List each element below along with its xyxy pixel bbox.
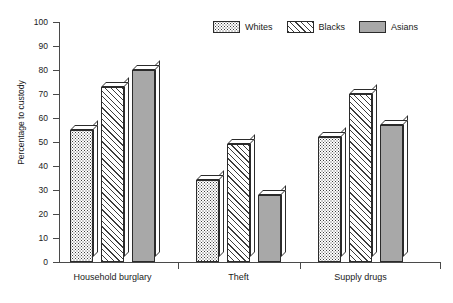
bar-front-face bbox=[380, 125, 403, 262]
bar-side-face bbox=[250, 134, 255, 257]
x-axis-separator-2 bbox=[300, 263, 301, 269]
y-tick-label-90: 90 bbox=[14, 42, 48, 51]
y-tick-20 bbox=[53, 214, 59, 215]
legend-item-whites[interactable]: Whites bbox=[213, 21, 273, 33]
x-axis-separator-1 bbox=[178, 263, 179, 269]
x-axis-line bbox=[59, 262, 441, 263]
bar-front-face bbox=[318, 137, 341, 262]
bar-side-face bbox=[155, 60, 160, 257]
bar-chart: Percentage to custody 010203040506070809… bbox=[0, 0, 453, 303]
y-tick-label-60: 60 bbox=[14, 114, 48, 123]
bar-front-face bbox=[258, 195, 281, 262]
bar-side-face bbox=[93, 120, 98, 257]
x-axis-separator-3 bbox=[440, 263, 441, 269]
y-tick-90 bbox=[53, 46, 59, 47]
legend-label-asians: Asians bbox=[391, 22, 418, 32]
bar-front-face bbox=[227, 144, 250, 262]
legend-label-blacks: Blacks bbox=[319, 22, 346, 32]
y-tick-80 bbox=[53, 70, 59, 71]
y-tick-label-20: 20 bbox=[14, 210, 48, 219]
legend-item-blacks[interactable]: Blacks bbox=[287, 21, 346, 33]
y-tick-label-0: 0 bbox=[14, 258, 48, 267]
bar-side-face bbox=[403, 115, 408, 257]
chart-legend: Whites Blacks Asians bbox=[213, 21, 418, 33]
y-tick-40 bbox=[53, 166, 59, 167]
y-tick-label-10: 10 bbox=[14, 234, 48, 243]
y-tick-label-30: 30 bbox=[14, 186, 48, 195]
x-category-label-supply-drugs: Supply drugs bbox=[301, 272, 421, 282]
legend-label-whites: Whites bbox=[245, 22, 273, 32]
y-tick-60 bbox=[53, 118, 59, 119]
bar-side-face bbox=[341, 127, 346, 257]
bar-front-face bbox=[196, 180, 219, 262]
y-tick-10 bbox=[53, 238, 59, 239]
bar-front-face bbox=[101, 87, 124, 262]
y-tick-label-80: 80 bbox=[14, 66, 48, 75]
bar-front-face bbox=[70, 130, 93, 262]
x-category-label-theft: Theft bbox=[179, 272, 299, 282]
y-tick-label-70: 70 bbox=[14, 90, 48, 99]
legend-item-asians[interactable]: Asians bbox=[359, 21, 418, 33]
x-category-label-household-burglary: Household burglary bbox=[53, 272, 173, 282]
y-tick-100 bbox=[53, 22, 59, 23]
y-axis-line bbox=[59, 22, 60, 263]
legend-swatch-blacks-icon bbox=[287, 21, 314, 33]
y-tick-label-100: 100 bbox=[14, 18, 48, 27]
legend-swatch-whites-icon bbox=[213, 21, 240, 33]
bar-front-face bbox=[132, 70, 155, 262]
y-tick-label-40: 40 bbox=[14, 162, 48, 171]
legend-swatch-asians-icon bbox=[359, 21, 386, 33]
y-tick-30 bbox=[53, 190, 59, 191]
bar-side-face bbox=[124, 77, 129, 257]
y-tick-label-50: 50 bbox=[14, 138, 48, 147]
bar-side-face bbox=[281, 185, 286, 257]
bar-side-face bbox=[219, 170, 224, 257]
bar-side-face bbox=[372, 84, 377, 257]
bar-front-face bbox=[349, 94, 372, 262]
y-tick-50 bbox=[53, 142, 59, 143]
y-tick-70 bbox=[53, 94, 59, 95]
